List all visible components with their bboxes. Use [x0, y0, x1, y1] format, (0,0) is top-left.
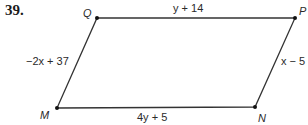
- side-label-pn: x − 5: [281, 55, 305, 67]
- parallelogram-outline: [57, 18, 295, 108]
- vertex-dot-m: [55, 106, 59, 110]
- vertex-label-q: Q: [83, 7, 92, 19]
- parallelogram-figure: Q P N M y + 14 x − 5 4y + 5 −2x + 37: [0, 0, 308, 125]
- vertex-label-p: P: [299, 5, 307, 17]
- side-label-qm: −2x + 37: [26, 55, 69, 67]
- side-label-mn: 4y + 5: [137, 111, 167, 123]
- vertex-dot-p: [293, 16, 297, 20]
- vertex-dot-q: [95, 16, 99, 20]
- side-label-qp: y + 14: [173, 2, 203, 14]
- vertex-label-n: N: [258, 112, 266, 124]
- vertex-dot-n: [253, 105, 257, 109]
- vertex-label-m: M: [40, 109, 50, 121]
